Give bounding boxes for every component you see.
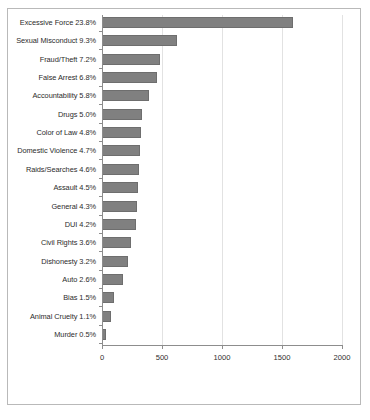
plot-area [102, 15, 342, 345]
category-label: False Arrest 6.8% [8, 73, 96, 83]
category-label: Animal Cruelty 1.1% [8, 311, 96, 321]
category-label: DUI 4.2% [8, 220, 96, 230]
x-axis-tick-label: 1000 [214, 353, 231, 362]
bar [102, 311, 111, 322]
category-label: Excessive Force 23.8% [8, 18, 96, 28]
category-label: Dishonesty 3.2% [8, 256, 96, 266]
y-axis-tick [99, 178, 102, 179]
gridline-2000 [342, 15, 343, 345]
x-axis-tick-label: 2000 [334, 353, 351, 362]
y-axis-tick [99, 306, 102, 307]
y-axis-tick [99, 123, 102, 124]
bar [102, 90, 149, 101]
bar [102, 54, 160, 65]
y-axis-tick [99, 104, 102, 105]
chart-frame: Excessive Force 23.8%Sexual Misconduct 9… [7, 8, 361, 405]
bar [102, 219, 136, 230]
bar [102, 127, 141, 138]
y-axis-tick [99, 49, 102, 50]
bar [102, 109, 142, 120]
y-axis-tick [99, 86, 102, 87]
category-label: Civil Rights 3.6% [8, 238, 96, 248]
y-axis-tick [99, 31, 102, 32]
category-label: Murder 0.5% [8, 330, 96, 340]
y-axis-tick [99, 343, 102, 344]
x-axis-tick-label: 1500 [274, 353, 291, 362]
category-label: Color of Law 4.8% [8, 128, 96, 138]
x-axis-tick [162, 345, 163, 349]
category-label: Raids/Searches 4.6% [8, 165, 96, 175]
bar [102, 35, 177, 46]
y-axis-tick [99, 196, 102, 197]
bar [102, 72, 157, 83]
category-label: Sexual Misconduct 9.3% [8, 36, 96, 46]
bar [102, 292, 114, 303]
category-label: Auto 2.6% [8, 275, 96, 285]
bar [102, 17, 293, 28]
bar [102, 237, 131, 248]
y-axis-tick [99, 270, 102, 271]
gridline-1000 [222, 15, 223, 345]
x-axis-tick-label: 500 [156, 353, 169, 362]
bar [102, 182, 138, 193]
y-axis-tick [99, 325, 102, 326]
bar [102, 145, 140, 156]
y-axis-tick [99, 141, 102, 142]
x-axis-tick [282, 345, 283, 349]
bar [102, 201, 137, 212]
category-label: Accountability 5.8% [8, 91, 96, 101]
bar [102, 256, 128, 267]
category-axis-labels: Excessive Force 23.8%Sexual Misconduct 9… [8, 15, 96, 345]
bar [102, 164, 139, 175]
x-axis-tick [102, 345, 103, 349]
category-label: Drugs 5.0% [8, 109, 96, 119]
y-axis-tick [99, 159, 102, 160]
y-axis-tick [99, 233, 102, 234]
category-label: Domestic Violence 4.7% [8, 146, 96, 156]
x-axis-tick [222, 345, 223, 349]
y-axis-line [102, 15, 103, 345]
category-label: Bias 1.5% [8, 293, 96, 303]
x-axis-tick-label: 0 [100, 353, 104, 362]
gridline-1500 [282, 15, 283, 345]
x-axis-tick [342, 345, 343, 349]
bar [102, 274, 123, 285]
category-label: Assault 4.5% [8, 183, 96, 193]
category-label: Fraud/Theft 7.2% [8, 54, 96, 64]
y-axis-tick [99, 215, 102, 216]
y-axis-tick [99, 251, 102, 252]
bar-chart: Excessive Force 23.8%Sexual Misconduct 9… [8, 9, 360, 404]
y-axis-tick [99, 68, 102, 69]
y-axis-tick [99, 288, 102, 289]
category-label: General 4.3% [8, 201, 96, 211]
gridline-500 [162, 15, 163, 345]
